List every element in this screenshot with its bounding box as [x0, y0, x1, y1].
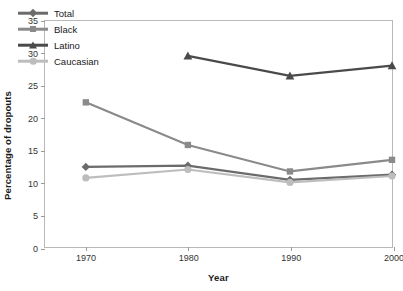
- y-axis-tick-mark: [41, 249, 45, 250]
- circle-marker-icon: [30, 58, 37, 65]
- x-axis-tick-label: 2000: [384, 253, 403, 263]
- chart-legend: TotalBlackLatinoCaucasian: [18, 6, 99, 68]
- y-axis-tick-mark: [41, 118, 45, 119]
- series-line: [86, 102, 392, 171]
- legend-item-label: Caucasian: [48, 56, 99, 67]
- y-axis-tick-mark: [41, 183, 45, 184]
- data-point-marker: [389, 157, 395, 163]
- legend-item-label: Total: [48, 8, 74, 19]
- x-axis-tick-label: 1980: [179, 253, 199, 263]
- series-latino: [184, 52, 397, 80]
- series-black: [83, 99, 396, 174]
- legend-item-black[interactable]: Black: [18, 22, 99, 36]
- dropout-rate-line-chart: Percentage of dropouts 05101520253035197…: [0, 0, 403, 291]
- triangle-marker-icon: [29, 42, 37, 49]
- y-axis-tick-label: 10: [25, 179, 41, 189]
- y-axis-tick-label: 5: [25, 211, 41, 221]
- data-point-marker: [83, 99, 89, 105]
- y-axis-tick-mark: [41, 86, 45, 87]
- x-axis-tick: 1990: [281, 247, 301, 263]
- x-axis-title: Year: [44, 272, 393, 283]
- y-axis-tick: 0: [25, 243, 45, 255]
- x-axis-tick: 2000: [384, 247, 403, 263]
- legend-key: [18, 39, 48, 51]
- data-point-marker: [82, 163, 90, 171]
- y-axis-tick-mark: [41, 216, 45, 217]
- y-axis-tick: 15: [25, 145, 45, 157]
- x-axis-tick-label: 1970: [76, 253, 96, 263]
- x-axis-tick-mark: [394, 247, 395, 251]
- series-line: [86, 166, 392, 180]
- y-axis-tick-label: 0: [25, 244, 41, 254]
- y-axis-tick-mark: [41, 151, 45, 152]
- y-axis-tick: 25: [25, 80, 45, 92]
- legend-item-label: Latino: [48, 40, 80, 51]
- legend-item-label: Black: [48, 24, 77, 35]
- data-point-marker: [286, 179, 293, 186]
- data-point-marker: [388, 172, 395, 179]
- y-axis-tick-label: 20: [25, 114, 41, 124]
- legend-key: [18, 7, 48, 19]
- data-point-marker: [287, 168, 293, 174]
- y-axis-tick: 10: [25, 178, 45, 190]
- legend-item-total[interactable]: Total: [18, 6, 99, 20]
- data-point-marker: [185, 142, 191, 148]
- x-axis-tick: 1980: [179, 247, 199, 263]
- legend-item-caucasian[interactable]: Caucasian: [18, 54, 99, 68]
- y-axis-tick-label: 25: [25, 81, 41, 91]
- x-axis-tick-mark: [188, 247, 189, 251]
- square-marker-icon: [30, 26, 36, 32]
- diamond-marker-icon: [29, 9, 37, 17]
- legend-item-latino[interactable]: Latino: [18, 38, 99, 52]
- data-point-marker: [184, 166, 191, 173]
- x-axis-tick: 1970: [76, 247, 96, 263]
- x-axis-tick-mark: [291, 247, 292, 251]
- data-point-marker: [82, 174, 89, 181]
- y-axis-tick: 20: [25, 113, 45, 125]
- x-axis-tick-mark: [86, 247, 87, 251]
- y-axis-tick-label: 15: [25, 146, 41, 156]
- y-axis-title: Percentage of dropouts: [2, 0, 18, 291]
- legend-key: [18, 23, 48, 35]
- legend-key: [18, 55, 48, 67]
- y-axis-tick: 5: [25, 210, 45, 222]
- x-axis-tick-label: 1990: [281, 253, 301, 263]
